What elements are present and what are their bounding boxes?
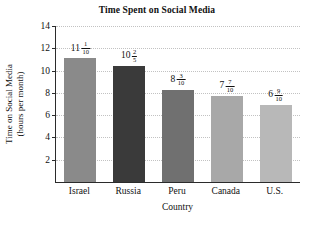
bar-value-label: 8310: [171, 73, 186, 87]
y-axis-tick-label: 14: [41, 21, 51, 31]
x-axis-tick-labels: IsraelRussiaPeruCanadaU.S.: [55, 186, 300, 201]
bar-slot: 6910: [251, 26, 300, 182]
bar-value-whole: 8: [171, 75, 176, 85]
bar-slot: 7710: [202, 26, 251, 182]
bar-slot: 8310: [154, 26, 203, 182]
y-axis-tick-label: 4: [45, 132, 50, 142]
y-axis-label-line1: Time on Social Media: [4, 64, 15, 144]
y-axis-tick-label: 10: [41, 66, 51, 76]
bar[interactable]: [260, 105, 292, 182]
fraction-denominator: 10: [177, 79, 186, 87]
x-axis-label: Country: [55, 202, 300, 212]
bar-value-label: 11110: [71, 41, 90, 55]
x-axis-tick-label: U.S.: [266, 186, 283, 196]
bar-value-whole: 11: [71, 44, 80, 54]
bar-value-fraction: 110: [81, 41, 90, 55]
bar-value-whole: 6: [268, 90, 273, 100]
chart-figure: Time Spent on Social Media Time on Socia…: [0, 0, 314, 225]
y-axis-tick-label: 8: [45, 88, 50, 98]
bar[interactable]: [113, 66, 145, 182]
fraction-denominator: 10: [81, 48, 90, 56]
y-axis-tick-label: 6: [45, 110, 50, 120]
bar-slot: 11110: [56, 26, 105, 182]
y-axis-tick-label: 2: [45, 155, 50, 165]
y-axis-label: Time on Social Media (hours per month): [2, 24, 28, 184]
bar[interactable]: [211, 96, 243, 182]
bar[interactable]: [162, 90, 194, 182]
bar[interactable]: [64, 58, 96, 182]
bar-series: 111101025831077106910: [56, 26, 300, 182]
fraction-denominator: 5: [132, 56, 137, 64]
x-axis-tick-label: Israel: [69, 186, 90, 196]
bar-value-whole: 7: [219, 81, 224, 91]
bar-value-whole: 10: [121, 51, 131, 61]
bar-value-fraction: 710: [226, 79, 235, 93]
bar-value-label: 6910: [268, 88, 283, 102]
bar-value-fraction: 25: [132, 49, 137, 63]
y-axis-tick-label: 12: [41, 43, 51, 53]
y-axis-label-line2: (hours per month): [15, 64, 26, 144]
bar-value-label: 1025: [121, 49, 137, 63]
x-axis-tick-label: Peru: [168, 186, 185, 196]
bar-value-fraction: 910: [274, 88, 283, 102]
bar-value-label: 7710: [219, 79, 234, 93]
x-axis-tick-label: Russia: [116, 186, 141, 196]
bar-value-fraction: 310: [177, 73, 186, 87]
x-axis-tick-label: Canada: [212, 186, 241, 196]
fraction-denominator: 10: [274, 95, 283, 103]
fraction-denominator: 10: [226, 86, 235, 94]
plot-area: 2468101214 111101025831077106910: [55, 26, 300, 183]
chart-title: Time Spent on Social Media: [0, 5, 314, 15]
bar-slot: 1025: [105, 26, 154, 182]
